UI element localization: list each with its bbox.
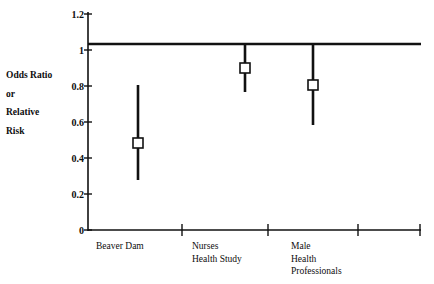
x-category-label-male-health-professionals: Male Health Professionals [291,240,342,278]
marker-beaver-dam [133,138,143,148]
data-point-beaver-dam [133,85,143,180]
x-category-label-male-line-1: Male [291,240,342,253]
forest-plot-figure: Odds Ratio or Relative Risk 1.2 1 0.8 0.… [0,0,434,284]
x-category-label-male-line-3: Professionals [291,265,342,278]
data-point-male-health-professionals [308,44,318,125]
x-category-label-nurses-health-study: Nurses Health Study [192,240,242,265]
marker-nurses-health-study [240,63,250,73]
x-category-label-beaver-dam: Beaver Dam [96,240,144,253]
x-category-label-nurses-line-2: Health Study [192,253,242,266]
marker-male-health-professionals [308,80,318,90]
x-category-label-beaver-dam-line-1: Beaver Dam [96,240,144,253]
data-point-nurses-health-study [240,44,250,92]
x-category-label-nurses-line-1: Nurses [192,240,242,253]
x-category-label-male-line-2: Health [291,253,342,266]
